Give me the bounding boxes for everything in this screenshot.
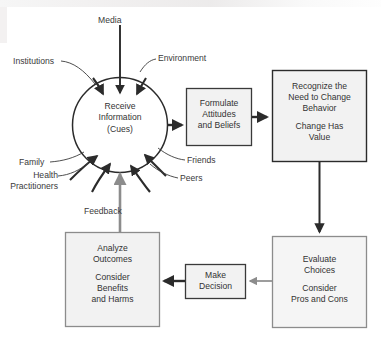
formulate-line-2: Attitudes: [186, 109, 252, 120]
peers-leader-line: [150, 164, 178, 178]
analyze-line-4: Benefits: [65, 283, 160, 294]
recognize-spacer: [272, 114, 367, 121]
label-institutions: Institutions: [13, 56, 54, 66]
text-formulate-attitudes-and-beliefs: Formulate Attitudes and Beliefs: [186, 98, 252, 131]
peers-arrow: [131, 166, 150, 192]
hub-line-1: Receive: [83, 101, 157, 112]
hub-line-3: (Cues): [83, 124, 157, 135]
label-family: Family: [19, 157, 44, 167]
health-practitioners-leader-line: [58, 163, 88, 176]
analyze-line-5: and Harms: [65, 294, 160, 305]
label-friends: Friends: [187, 155, 216, 165]
institutions-leader-line: [61, 61, 95, 84]
formulate-line-1: Formulate: [186, 98, 252, 109]
label-media: Media: [98, 15, 121, 25]
recognize-line-2: Need to Change: [272, 92, 367, 103]
family-arrow: [70, 156, 97, 180]
text-evaluate-choices: Evaluate Choices Consider Pros and Cons: [272, 254, 367, 305]
text-analyze-outcomes: Analyze Outcomes Consider Benefits and H…: [65, 243, 160, 305]
evaluate-line-1: Evaluate: [272, 254, 367, 265]
friends-leader-line: [158, 148, 185, 160]
recognize-line-5: Value: [272, 132, 367, 143]
evaluate-line-3: Consider: [272, 283, 367, 294]
family-leader-line: [50, 152, 84, 162]
recognize-line-3: Behavior: [272, 103, 367, 114]
evaluate-line-2: Choices: [272, 265, 367, 276]
label-environment: Environment: [158, 53, 206, 63]
label-peers: Peers: [180, 173, 202, 183]
recognize-line-4: Change Has: [272, 121, 367, 132]
analyze-line-2: Outcomes: [65, 254, 160, 265]
text-make-decision: Make Decision: [185, 270, 246, 292]
analyze-line-1: Analyze: [65, 243, 160, 254]
label-health-practitioners-line2: Practitioners: [0, 181, 58, 191]
text-recognize-need-to-change-behavior: Recognize the Need to Change Behavior Ch…: [272, 81, 367, 143]
analyze-spacer: [65, 265, 160, 272]
make-decision-line-1: Make: [185, 270, 246, 281]
diagram-canvas: Receive Information (Cues) Institutions …: [0, 0, 381, 342]
evaluate-line-4: Pros and Cons: [272, 294, 367, 305]
evaluate-spacer: [272, 276, 367, 283]
label-health-practitioners-line1: Health: [0, 170, 58, 180]
make-decision-line-2: Decision: [185, 281, 246, 292]
scan-edge-bottom: [0, 332, 381, 342]
analyze-line-3: Consider: [65, 272, 160, 283]
formulate-line-3: and Beliefs: [186, 120, 252, 131]
hub-line-2: Information: [83, 112, 157, 123]
receive-information-label: Receive Information (Cues): [83, 101, 157, 135]
recognize-line-1: Recognize the: [272, 81, 367, 92]
label-feedback: Feedback: [84, 206, 122, 216]
environment-leader-line: [140, 59, 156, 72]
